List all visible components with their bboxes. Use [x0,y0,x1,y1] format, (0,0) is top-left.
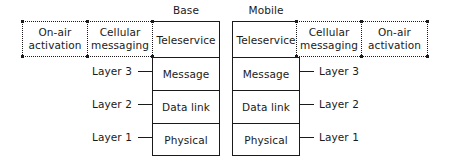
dashed-corner-marker [360,55,363,58]
protocol-stack-diagram: Base Mobile Teleservice Message Data lin… [0,0,450,167]
layer-label-left-3: Layer 3 [80,65,132,77]
layer-label-left-2: Layer 2 [80,98,132,110]
dashed-label-line2: activation [28,39,81,51]
base-layer-cell-data-link: Data link [153,90,219,123]
base-stack-title: Base [152,4,220,16]
dashed-box-left-on-air-activation: On-air activation [22,21,88,57]
layer-label-right-3: Layer 3 [319,65,371,77]
connector-right-layer-2 [300,104,314,105]
base-layer-cell-message: Message [153,57,219,90]
connector-left-layer-2 [138,104,152,105]
dashed-corner-marker [426,55,429,58]
mobile-layer-cell-physical: Physical [233,123,299,155]
dashed-corner-marker [295,20,298,23]
mobile-protocol-stack: Teleservice Message Data link Physical [232,21,300,156]
mobile-layer-cell-data-link: Data link [233,90,299,123]
dashed-corner-marker [151,55,154,58]
dashed-corner-marker [21,20,24,23]
layer-label-right-1: Layer 1 [319,131,371,143]
dashed-corner-marker [86,55,89,58]
connector-right-layer-1 [300,137,314,138]
dashed-corner-marker [426,20,429,23]
dashed-corner-marker [151,20,154,23]
dashed-label-line1: Cellular [309,26,350,38]
base-layer-cell-teleservice: Teleservice [153,22,219,57]
connector-left-layer-3 [138,71,152,72]
dashed-corner-marker [295,55,298,58]
dashed-corner-marker [360,20,363,23]
dashed-label-line2: messaging [300,39,358,51]
connector-left-layer-1 [138,137,152,138]
layer-label-right-2: Layer 2 [319,98,371,110]
dashed-label-line2: messaging [91,39,149,51]
dashed-corner-marker [21,55,24,58]
dashed-label-line1: On-air [378,26,411,38]
mobile-stack-title: Mobile [232,4,300,16]
dashed-box-left-cellular-messaging: Cellular messaging [87,21,153,57]
base-protocol-stack: Teleservice Message Data link Physical [152,21,220,156]
dashed-label-line1: On-air [39,26,72,38]
layer-label-left-1: Layer 1 [80,131,132,143]
connector-right-layer-3 [300,71,314,72]
dashed-corner-marker [86,20,89,23]
dashed-label-line1: Cellular [100,26,141,38]
dashed-label-line2: activation [368,39,421,51]
mobile-layer-cell-teleservice: Teleservice [233,22,299,57]
mobile-layer-cell-message: Message [233,57,299,90]
dashed-box-right-on-air-activation: On-air activation [361,21,428,57]
base-layer-cell-physical: Physical [153,123,219,155]
dashed-box-right-cellular-messaging: Cellular messaging [296,21,362,57]
